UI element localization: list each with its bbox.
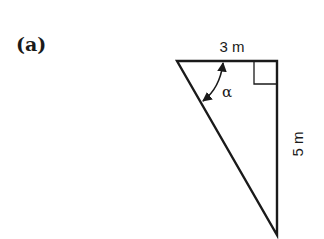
- right-triangle-diagram: 3 m α 5 m: [0, 0, 324, 239]
- right-side-label: 5 m: [289, 131, 306, 156]
- angle-arc-icon: [203, 63, 223, 101]
- right-angle-marker: [254, 61, 277, 84]
- angle-label: α: [222, 83, 232, 101]
- top-side-label: 3 m: [219, 38, 244, 55]
